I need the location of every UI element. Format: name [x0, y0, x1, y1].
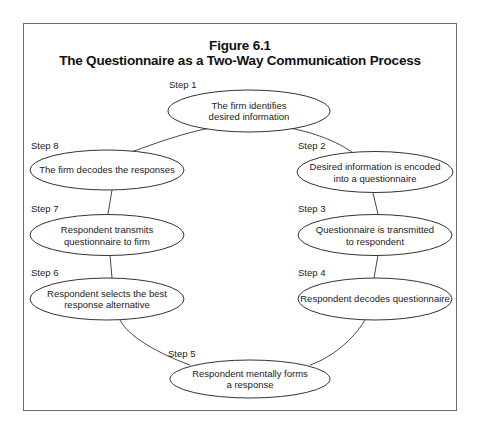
step-1-label: Step 1: [169, 79, 196, 90]
step-8-text: The firm decodes the responses: [30, 150, 184, 190]
step-3-label: Step 3: [298, 203, 325, 214]
step-2-text: Desired information is encoded into a qu…: [297, 152, 453, 193]
step-6-label: Step 6: [31, 267, 58, 278]
step-5-text: Respondent mentally forms a response: [170, 360, 330, 398]
step-3-text: Questionnaire is transmitted to responde…: [298, 215, 452, 256]
step-4-text: Respondent decodes questionnaire: [298, 278, 452, 320]
step-5-label: Step 5: [168, 348, 195, 359]
step-2-label: Step 2: [298, 140, 325, 151]
step-1-text: The firm identifies desired information: [168, 90, 330, 132]
step-6-text: Respondent selects the best response alt…: [30, 278, 184, 320]
step-7-text: Respondent transmits questionnaire to fi…: [30, 215, 184, 256]
step-4-label: Step 4: [298, 267, 325, 278]
step-7-label: Step 7: [31, 203, 58, 214]
